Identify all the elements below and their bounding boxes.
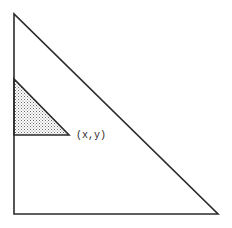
point-label-xy: (x,y): [76, 130, 106, 141]
shaded-triangle: [14, 79, 69, 135]
triangle-diagram: [0, 0, 232, 228]
